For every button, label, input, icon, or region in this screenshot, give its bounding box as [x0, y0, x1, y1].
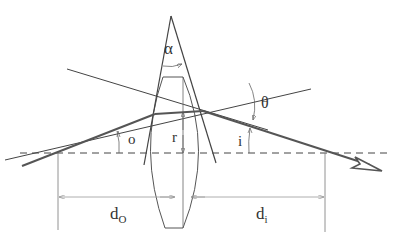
theta-label: θ	[261, 95, 269, 111]
diagram-svg	[0, 0, 401, 240]
refracted-ray	[203, 111, 370, 165]
o-angle-label: o	[128, 132, 136, 147]
ray-inside-lens	[155, 111, 203, 114]
theta-angle-arc	[249, 83, 255, 120]
do-label-sub: O	[119, 213, 127, 225]
di-label-main: d	[256, 204, 265, 223]
di-label: di	[256, 205, 268, 222]
prism-right-edge	[171, 16, 216, 163]
do-label-main: d	[110, 204, 119, 223]
do-label: dO	[110, 205, 126, 222]
i-angle-label: i	[238, 134, 242, 149]
r-label: r	[172, 130, 177, 145]
normal-line-left	[67, 69, 268, 130]
di-label-sub: i	[265, 213, 268, 225]
alpha-arc	[163, 64, 182, 67]
ray-arrowhead	[352, 157, 382, 171]
lens-prism-diagram: α θ o i r dO di	[0, 0, 401, 240]
alpha-label: α	[164, 40, 173, 57]
